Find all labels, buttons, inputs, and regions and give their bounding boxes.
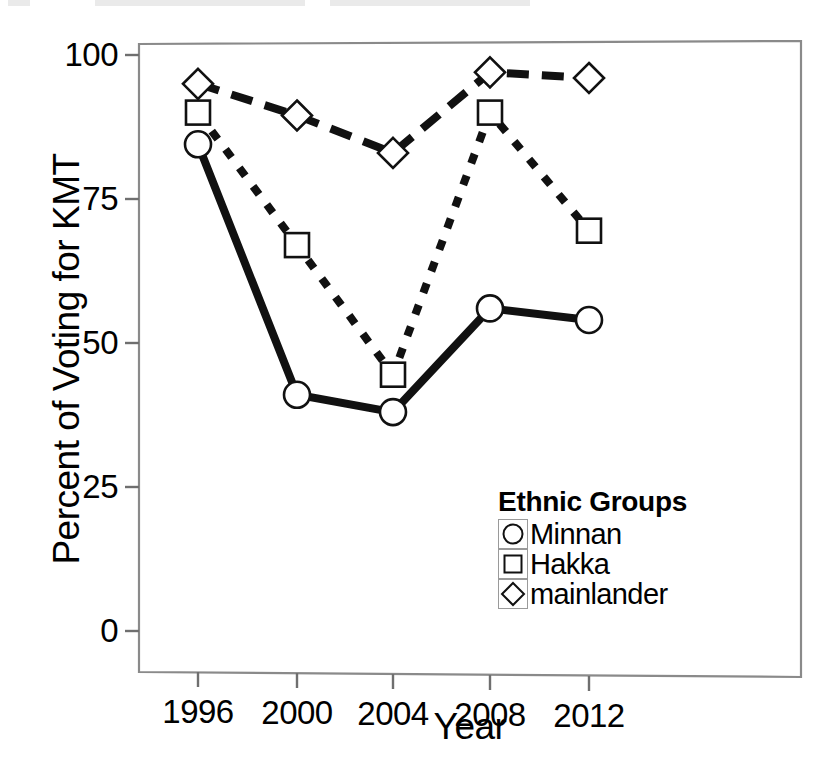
y-axis-ticks (125, 55, 139, 631)
diamond-marker-icon (498, 579, 528, 609)
legend-title: Ethnic Groups (498, 487, 687, 517)
legend-label-minnan: Minnan (530, 519, 622, 549)
legend-label-mainlander: mainlander (530, 579, 667, 609)
legend-row-hakka[interactable]: Hakka (498, 549, 687, 579)
legend-row-minnan[interactable]: Minnan (498, 519, 687, 549)
y-axis-title: Percent of Voting for KMT (46, 124, 88, 594)
line-chart-plot (0, 0, 836, 784)
square-marker-icon (498, 549, 528, 579)
legend: Ethnic Groups Minnan Hakka mainlander (498, 487, 687, 609)
y-tick-label-100: 100 (8, 36, 118, 74)
legend-label-hakka: Hakka (530, 549, 609, 579)
x-axis-title: Year (139, 706, 801, 748)
legend-items: Minnan Hakka mainlander (498, 519, 687, 609)
y-tick-label-0: 0 (8, 612, 118, 650)
plot-frame (139, 41, 801, 677)
legend-row-mainlander[interactable]: mainlander (498, 579, 687, 609)
chart-canvas: 100 75 50 25 0 1996 2000 2004 2008 2012 … (0, 0, 836, 784)
circle-marker-icon (498, 519, 528, 549)
